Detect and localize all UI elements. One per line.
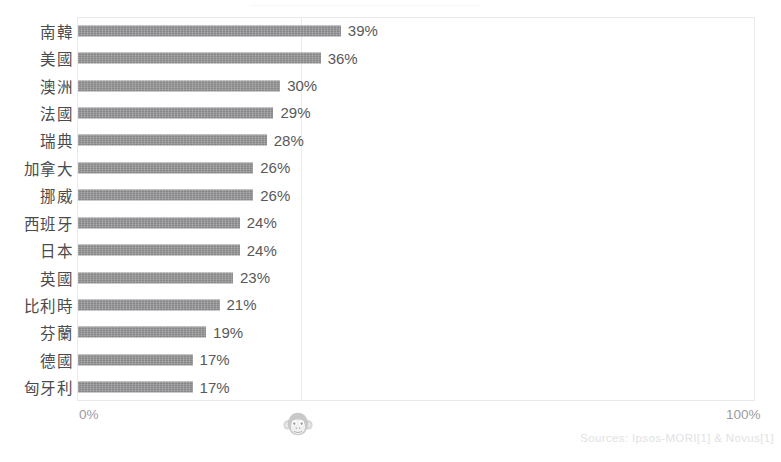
source-attribution: Sources: Ipsos-MORI[1] & Novus[1] xyxy=(580,432,774,444)
bar-fill xyxy=(78,299,220,310)
bar-value-label: 39% xyxy=(341,22,378,39)
bar-fill xyxy=(78,25,341,36)
bar-value-label: 19% xyxy=(206,324,243,341)
category-label: 比利時 xyxy=(0,294,73,316)
bar-track: 19% xyxy=(78,327,752,338)
bar-fill xyxy=(78,245,240,256)
bar-fill xyxy=(78,272,233,283)
bar-track: 29% xyxy=(78,107,752,118)
bar-fill xyxy=(78,327,206,338)
bar-track: 17% xyxy=(78,382,752,393)
bar-track: 39% xyxy=(78,25,752,36)
bar-fill xyxy=(78,107,273,118)
bar-fill xyxy=(78,382,193,393)
bar-track: 36% xyxy=(78,53,752,64)
bar-track: 21% xyxy=(78,299,752,310)
bar-chart: 南韓 39% 美國 36% 澳洲 30% 法國 29% xyxy=(0,0,781,462)
bar-fill xyxy=(78,80,280,91)
bar-fill xyxy=(78,217,240,228)
bar-row: 瑞典 28% xyxy=(0,127,781,154)
bar-value-label: 36% xyxy=(321,50,358,67)
bar-track: 26% xyxy=(78,162,752,173)
category-label: 法國 xyxy=(0,102,73,124)
bar-fill xyxy=(78,135,267,146)
bar-value-label: 26% xyxy=(253,187,290,204)
category-label: 德國 xyxy=(0,349,73,371)
bar-row: 匈牙利 17% xyxy=(0,373,781,400)
x-axis-tick-max: 100% xyxy=(726,407,761,422)
category-label: 匈牙利 xyxy=(0,376,73,398)
bar-value-label: 24% xyxy=(240,214,277,231)
top-edge-artifact xyxy=(250,5,480,6)
category-label: 芬蘭 xyxy=(0,321,73,343)
category-label: 英國 xyxy=(0,267,73,289)
category-label: 美國 xyxy=(0,47,73,69)
bar-row: 西班牙 24% xyxy=(0,209,781,236)
bar-value-label: 17% xyxy=(193,351,230,368)
bar-fill xyxy=(78,53,321,64)
bar-fill xyxy=(78,190,253,201)
bar-row: 澳洲 30% xyxy=(0,72,781,99)
category-label: 澳洲 xyxy=(0,75,73,97)
bar-value-label: 24% xyxy=(240,242,277,259)
bar-fill xyxy=(78,354,193,365)
x-axis-tick-min: 0% xyxy=(79,407,99,422)
bar-value-label: 28% xyxy=(267,132,304,149)
bar-value-label: 29% xyxy=(273,104,310,121)
bar-row: 加拿大 26% xyxy=(0,154,781,181)
bar-track: 23% xyxy=(78,272,752,283)
bar-track: 30% xyxy=(78,80,752,91)
bar-row: 德國 17% xyxy=(0,346,781,373)
bar-fill xyxy=(78,162,253,173)
bar-value-label: 23% xyxy=(233,269,270,286)
category-label: 西班牙 xyxy=(0,212,73,234)
bar-track: 26% xyxy=(78,190,752,201)
bar-track: 28% xyxy=(78,135,752,146)
bar-row: 法國 29% xyxy=(0,99,781,126)
bar-row: 英國 23% xyxy=(0,264,781,291)
bar-value-label: 26% xyxy=(253,159,290,176)
bar-track: 24% xyxy=(78,217,752,228)
bar-row: 挪威 26% xyxy=(0,182,781,209)
bar-row: 美國 36% xyxy=(0,44,781,71)
monkey-face-icon xyxy=(283,411,313,437)
bar-row: 芬蘭 19% xyxy=(0,319,781,346)
category-label: 加拿大 xyxy=(0,157,73,179)
bar-value-label: 17% xyxy=(193,379,230,396)
bar-track: 24% xyxy=(78,245,752,256)
bar-row: 日本 24% xyxy=(0,236,781,263)
bar-row: 比利時 21% xyxy=(0,291,781,318)
category-label: 南韓 xyxy=(0,20,73,42)
bar-rows: 南韓 39% 美國 36% 澳洲 30% 法國 29% xyxy=(0,17,781,401)
bar-track: 17% xyxy=(78,354,752,365)
category-label: 日本 xyxy=(0,239,73,261)
category-label: 挪威 xyxy=(0,184,73,206)
bar-value-label: 21% xyxy=(220,296,257,313)
bar-row: 南韓 39% xyxy=(0,17,781,44)
category-label: 瑞典 xyxy=(0,129,73,151)
bar-value-label: 30% xyxy=(280,77,317,94)
